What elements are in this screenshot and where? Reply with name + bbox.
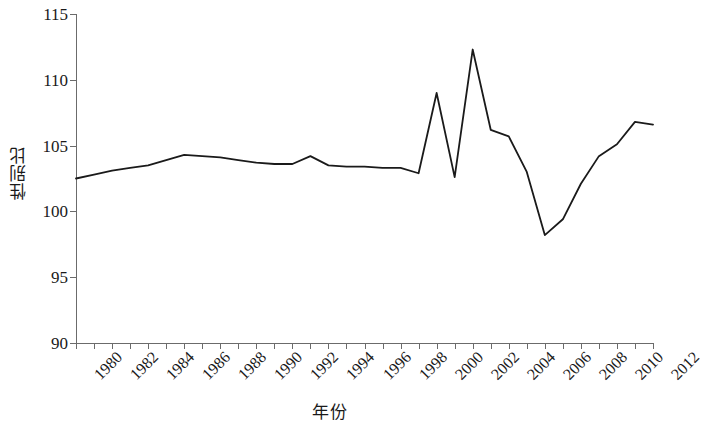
y-axis-tick-labels: 1151101051009590	[20, 0, 68, 430]
y-tick-label: 95	[22, 269, 68, 286]
x-tick-label: 2000	[452, 349, 486, 383]
x-tick-label: 1994	[344, 349, 378, 383]
y-tick-label: 110	[22, 71, 68, 88]
y-tick-label: 105	[22, 137, 68, 154]
sex-ratio-polyline	[76, 50, 653, 236]
x-tick-label: 1990	[272, 349, 306, 383]
x-tick-label: 2012	[668, 349, 702, 383]
x-tick-label: 1998	[416, 349, 450, 383]
x-tick-label: 2002	[488, 349, 522, 383]
x-tick-label: 1980	[91, 349, 125, 383]
y-tick-label: 115	[22, 6, 68, 23]
x-tick-label: 2008	[596, 349, 630, 383]
x-tick-label: 1988	[236, 349, 270, 383]
y-tick-label: 100	[22, 203, 68, 220]
x-tick-label: 2006	[560, 349, 594, 383]
x-tick-label: 2010	[632, 349, 666, 383]
x-tick-label: 2004	[524, 349, 558, 383]
data-series-line	[76, 14, 653, 343]
x-axis-title: 年份	[0, 398, 660, 423]
x-tick-label: 1984	[163, 349, 197, 383]
x-tick-label: 1996	[380, 349, 414, 383]
plot-area	[76, 14, 653, 343]
x-tick-label: 1992	[308, 349, 342, 383]
y-tick-label: 90	[22, 335, 68, 352]
x-tick-label: 1986	[200, 349, 234, 383]
x-tick-label: 1982	[127, 349, 161, 383]
x-axis-title-text: 年份	[312, 402, 348, 422]
